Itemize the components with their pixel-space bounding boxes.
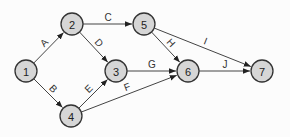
edge-label-h: H [165,36,178,49]
node-label: 5 [141,19,147,31]
node-label: 7 [259,66,265,78]
edge-label-c: C [104,12,111,23]
node-label: 4 [68,111,74,123]
edge-label-j: J [223,59,228,70]
node-label: 2 [69,19,75,31]
node-5: 5 [133,13,155,35]
node-label: 6 [185,66,191,78]
edge-label-a: A [38,36,51,49]
edge-label-e: E [82,82,95,95]
network-diagram: ABCDEFGHIJ 1234567 [0,0,290,137]
node-label: 3 [113,66,119,78]
edge-f [81,75,177,112]
node-2: 2 [61,13,83,35]
edge-d [80,32,108,62]
node-6: 6 [177,60,199,82]
node-7: 7 [251,60,273,82]
edge-label-f: F [122,81,132,93]
edge-label-g: G [148,59,156,70]
diagram-svg: ABCDEFGHIJ 1234567 [0,0,290,137]
edge-label-b: B [47,82,60,95]
edge-label-d: D [93,36,106,49]
node-3: 3 [105,60,127,82]
node-1: 1 [15,60,37,82]
node-label: 1 [23,66,29,78]
edge-label-i: I [202,35,209,46]
edge-b [34,79,63,108]
nodes-group: 1234567 [15,13,273,127]
node-4: 4 [60,105,82,127]
edge-a [34,33,64,64]
